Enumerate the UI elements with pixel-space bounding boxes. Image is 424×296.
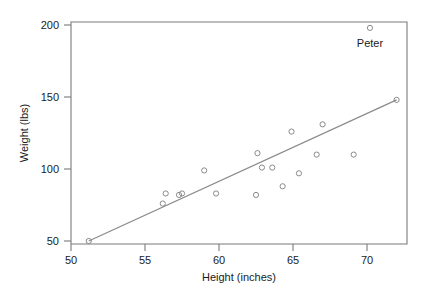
x-tick-label-55: 55 [139,254,151,266]
x-tick-label-60: 60 [213,254,225,266]
point-label-peter: Peter [357,37,384,49]
y-axis-title: Weight (lbs) [18,104,30,162]
y-tick-label-100: 100 [41,163,59,175]
x-axis-title: Height (inches) [202,271,276,283]
x-tick-label-70: 70 [361,254,373,266]
scatter-plot-figure: 200 150 100 50 50 55 60 65 70 Height (in… [0,0,424,296]
y-tick-label-200: 200 [41,19,59,31]
x-tick-label-50: 50 [65,254,77,266]
point-annotations-group: Peter [357,37,384,49]
y-tick-label-50: 50 [47,235,59,247]
x-tick-label-65: 65 [287,254,299,266]
y-tick-label-150: 150 [41,91,59,103]
